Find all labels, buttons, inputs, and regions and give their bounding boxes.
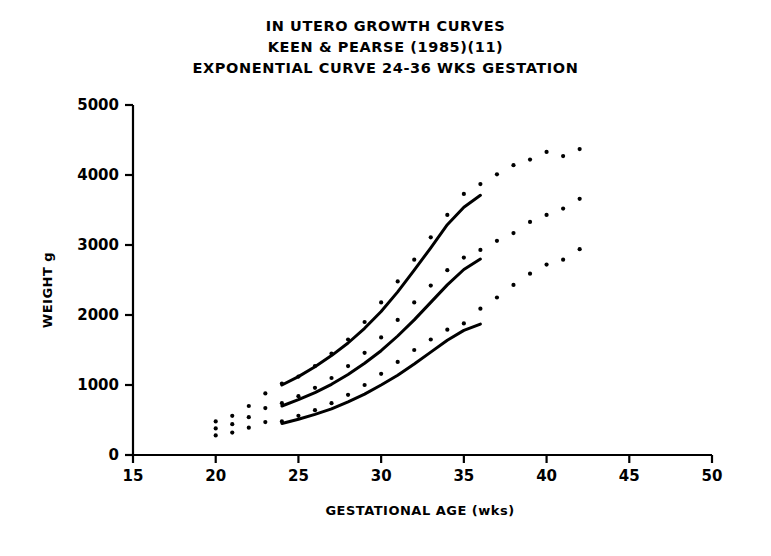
data-point (412, 300, 416, 304)
data-point (296, 414, 300, 418)
data-point (578, 197, 582, 201)
x-tick-label: 15 (123, 467, 144, 485)
data-point (578, 147, 582, 151)
data-point (445, 213, 449, 217)
data-point (578, 247, 582, 251)
data-point (346, 364, 350, 368)
data-point (495, 295, 499, 299)
y-tick-label: 5000 (77, 96, 119, 114)
x-axis-label: GESTATIONAL AGE (wks) (325, 503, 514, 518)
data-point (412, 348, 416, 352)
data-point (247, 415, 251, 419)
data-point (329, 401, 333, 405)
data-point (495, 172, 499, 176)
data-point (263, 406, 267, 410)
data-point (230, 422, 234, 426)
data-point (478, 182, 482, 186)
data-point (544, 263, 548, 267)
data-point (396, 318, 400, 322)
scatter-series (214, 247, 582, 437)
data-point (544, 213, 548, 217)
chart-axes (126, 105, 712, 455)
data-point (445, 328, 449, 332)
data-point (363, 351, 367, 355)
x-tick-label: 35 (453, 467, 474, 485)
data-point (396, 279, 400, 283)
x-tick-label: 20 (205, 467, 226, 485)
data-point (346, 393, 350, 397)
y-tick-label: 1000 (77, 376, 119, 394)
data-point (363, 320, 367, 324)
data-point (363, 383, 367, 387)
y-tick-label: 4000 (77, 166, 119, 184)
data-point (313, 408, 317, 412)
data-point (247, 404, 251, 408)
fit-curve (282, 195, 481, 385)
data-point (214, 433, 218, 437)
y-axis-label: WEIGHT g (40, 252, 55, 328)
data-point (379, 300, 383, 304)
x-tick-label: 40 (536, 467, 557, 485)
data-point (445, 268, 449, 272)
data-point (429, 284, 433, 288)
x-tick-label: 50 (702, 467, 723, 485)
x-axis-ticks: 1520253035404550 (123, 455, 723, 485)
data-point (561, 154, 565, 158)
data-point (462, 321, 466, 325)
data-point (495, 239, 499, 243)
y-tick-label: 2000 (77, 306, 119, 324)
data-point (511, 163, 515, 167)
y-tick-label: 3000 (77, 236, 119, 254)
data-point (544, 150, 548, 154)
data-point (313, 386, 317, 390)
chart-figure: IN UTERO GROWTH CURVES KEEN & PEARSE (19… (0, 0, 771, 556)
data-point (230, 414, 234, 418)
chart-series (214, 147, 582, 438)
data-point (412, 258, 416, 262)
y-tick-label: 0 (109, 446, 119, 464)
data-point (511, 231, 515, 235)
data-point (396, 360, 400, 364)
x-tick-label: 25 (288, 467, 309, 485)
data-point (379, 372, 383, 376)
data-point (214, 419, 218, 423)
data-point (561, 207, 565, 211)
data-point (329, 376, 333, 380)
data-point (528, 220, 532, 224)
scatter-series (214, 147, 582, 424)
x-tick-label: 45 (619, 467, 640, 485)
data-point (478, 307, 482, 311)
data-point (429, 235, 433, 239)
data-point (561, 258, 565, 262)
data-point (528, 158, 532, 162)
data-point (511, 283, 515, 287)
data-point (429, 337, 433, 341)
y-axis-ticks: 010002000300040005000 (77, 96, 133, 464)
data-point (230, 431, 234, 435)
data-point (478, 248, 482, 252)
chart-plot-area: 1520253035404550 010002000300040005000 G… (0, 0, 771, 556)
data-point (528, 272, 532, 276)
data-point (379, 335, 383, 339)
scatter-series (214, 197, 582, 431)
data-point (214, 426, 218, 430)
data-point (263, 420, 267, 424)
data-point (462, 192, 466, 196)
data-point (462, 256, 466, 260)
x-tick-label: 30 (371, 467, 392, 485)
data-point (247, 426, 251, 430)
data-point (263, 391, 267, 395)
